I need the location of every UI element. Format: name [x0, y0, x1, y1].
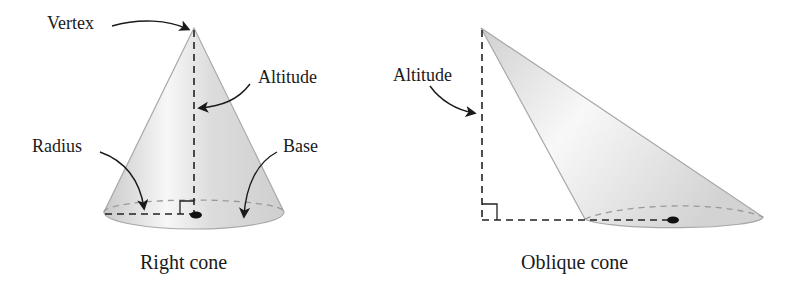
vertex-arrow [112, 21, 188, 29]
oblique-cone-caption: Oblique cone [521, 252, 628, 272]
vertex-label: Vertex [47, 14, 94, 32]
oblique-altitude-arrow [430, 86, 474, 113]
radius-label: Radius [32, 137, 82, 155]
oblique-cone [430, 28, 763, 228]
right-altitude-label: Altitude [258, 68, 317, 86]
right-cone-caption: Right cone [140, 252, 227, 272]
oblique-cone-center-dot [667, 217, 679, 224]
right-cone [100, 21, 284, 229]
cones-figure [0, 0, 797, 298]
oblique-altitude-label: Altitude [393, 66, 452, 84]
cone-diagram: Vertex Altitude Radius Base Right cone A… [0, 0, 797, 298]
base-label: Base [283, 137, 318, 155]
oblique-cone-right-angle-marker [482, 204, 497, 220]
oblique-cone-body [481, 28, 763, 228]
right-cone-center-dot [190, 212, 202, 219]
